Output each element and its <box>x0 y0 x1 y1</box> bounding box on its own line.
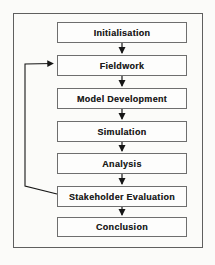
flow-step-model-development: Model Development <box>57 88 187 109</box>
flow-step-label: Stakeholder Evaluation <box>69 192 175 202</box>
flow-step-label: Analysis <box>102 159 141 169</box>
flow-step-label: Simulation <box>97 127 146 137</box>
flow-step-analysis: Analysis <box>57 153 187 174</box>
flow-step-stakeholder-evaluation: Stakeholder Evaluation <box>57 186 187 207</box>
flowchart-diagram: Initialisation Fieldwork Model Developme… <box>0 0 215 265</box>
flow-step-label: Model Development <box>77 94 167 104</box>
flow-step-conclusion: Conclusion <box>57 217 187 237</box>
flow-step-initialisation: Initialisation <box>57 22 187 43</box>
flow-step-label: Conclusion <box>96 222 148 232</box>
flow-step-simulation: Simulation <box>57 121 187 142</box>
flow-step-label: Fieldwork <box>100 61 145 71</box>
flow-step-label: Initialisation <box>94 28 151 38</box>
flow-step-fieldwork: Fieldwork <box>57 55 187 76</box>
